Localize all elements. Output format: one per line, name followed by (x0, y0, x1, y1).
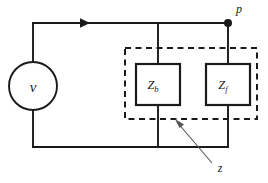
node-p-dot (224, 19, 232, 27)
group-label-leader-line (177, 122, 212, 163)
group-label: z (217, 161, 223, 175)
node-p-label: p (235, 2, 242, 16)
circuit-canvas: v p z Zb Zf (0, 0, 268, 183)
current-direction-arrow-icon (80, 18, 90, 28)
impedance-zf-box (206, 64, 250, 105)
group-label-leader-arrow-icon (175, 119, 184, 128)
impedance-zb-subscript: b (154, 84, 158, 94)
voltage-source-label: v (30, 79, 37, 95)
circuit-diagram: v p z Zb Zf (0, 0, 268, 183)
